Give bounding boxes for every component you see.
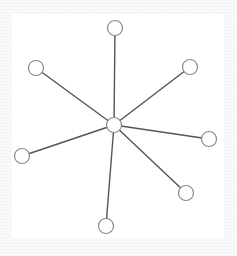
node-center xyxy=(107,118,122,133)
node-right xyxy=(202,132,217,147)
star-graph xyxy=(0,0,237,256)
edge-center-to-top-right xyxy=(114,67,190,125)
node-top-right xyxy=(183,60,198,75)
node-top-left xyxy=(29,61,44,76)
edge-center-to-top xyxy=(114,28,115,125)
edge-center-to-right xyxy=(114,125,209,139)
edge-center-to-bottom xyxy=(106,125,114,226)
node-left xyxy=(15,149,30,164)
edge-center-to-left xyxy=(22,125,114,156)
edge-center-to-bottom-right xyxy=(114,125,186,193)
edge-center-to-top-left xyxy=(36,68,114,125)
node-bottom-right xyxy=(179,186,194,201)
nodes-group xyxy=(15,21,217,234)
node-top xyxy=(108,21,123,36)
node-bottom xyxy=(99,219,114,234)
